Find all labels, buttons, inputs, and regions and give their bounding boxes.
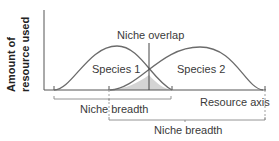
niche-breadth-bracket-2 (109, 117, 265, 122)
niche-breadth-label-1: Niche breadth (80, 104, 149, 115)
y-axis-label: Amount of resource used (4, 10, 40, 92)
overlap-label: Niche overlap (117, 30, 184, 41)
niche-breadth-label-2: Niche breadth (154, 125, 223, 136)
niche-breadth-bracket-1 (54, 96, 171, 101)
species-2-label: Species 2 (177, 64, 225, 75)
species-1-label: Species 1 (92, 64, 140, 75)
x-axis-label: Resource axis (200, 97, 270, 108)
